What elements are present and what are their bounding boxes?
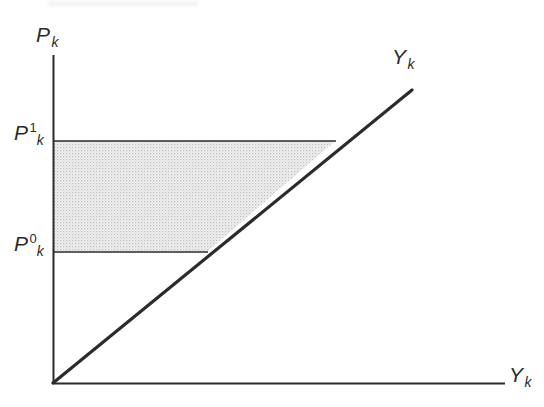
x-axis-label: Yk xyxy=(509,364,531,385)
price-low-label-subscript: k xyxy=(37,243,44,259)
price-high-label-base: P xyxy=(14,121,29,144)
diagonal-line-label: Yk xyxy=(392,46,414,67)
y-axis-label: Pk xyxy=(36,24,58,45)
price-low-label-base: P xyxy=(14,232,29,255)
price-low-label: P0k xyxy=(14,233,43,254)
shaded-price-band-region xyxy=(53,141,335,252)
price-low-label-superscript: 0 xyxy=(30,231,37,246)
x-axis-label-base: Y xyxy=(509,363,524,386)
diagram-svg xyxy=(0,0,544,407)
x-axis-label-subscript: k xyxy=(525,374,532,390)
diagonal-line-label-subscript: k xyxy=(408,56,415,72)
price-high-label-subscript: k xyxy=(37,132,44,148)
y-axis-label-base: P xyxy=(36,23,51,46)
price-high-label-superscript: 1 xyxy=(30,120,37,135)
y-axis-label-subscript: k xyxy=(52,34,59,50)
diagonal-line-label-base: Y xyxy=(392,45,407,68)
price-high-label: P1k xyxy=(14,122,43,143)
figure-canvas: Pk P1k P0k Yk Yk xyxy=(0,0,544,407)
